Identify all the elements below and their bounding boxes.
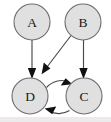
directed-graph-figure: A B D C	[0, 0, 111, 122]
edge-c-to-d	[45, 107, 70, 115]
node-a[interactable]: A	[14, 4, 50, 40]
node-c[interactable]: C	[66, 78, 102, 114]
node-d[interactable]: D	[12, 78, 48, 114]
edge-b-to-c-arrowhead	[79, 68, 87, 79]
bottom-edge-band	[0, 117, 111, 122]
edge-b-to-d	[42, 36, 71, 75]
edge-a-to-d-arrowhead	[28, 68, 36, 79]
edge-a-to-d	[28, 40, 36, 79]
node-a-label: A	[27, 15, 37, 30]
node-b[interactable]: B	[65, 4, 101, 40]
edge-b-to-c	[79, 40, 87, 79]
node-b-label: B	[78, 15, 87, 30]
graph-canvas: A B D C	[0, 0, 111, 122]
node-layer: A B D C	[12, 4, 102, 114]
node-c-label: C	[79, 89, 88, 104]
node-d-label: D	[25, 89, 35, 104]
edge-b-to-d-line	[46, 36, 72, 70]
